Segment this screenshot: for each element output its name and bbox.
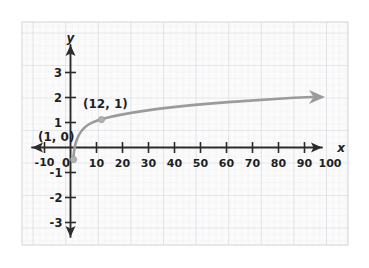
x-tick-label-30: 30 — [141, 157, 157, 170]
coordinate-plane-figure: -10 0 10 20 30 40 50 60 70 80 90 100 3 2… — [0, 0, 369, 268]
annotation-point-12-1: (12, 1) — [83, 97, 128, 111]
point-marker-12-1 — [98, 117, 104, 123]
y-axis-title: y — [67, 31, 76, 45]
x-tick-label-0: 0 — [62, 156, 70, 170]
x-tick-label-70: 70 — [245, 157, 261, 170]
graph-canvas: -10 0 10 20 30 40 50 60 70 80 90 100 3 2… — [0, 0, 369, 268]
x-tick-label-60: 60 — [219, 157, 235, 170]
y-tick-label-2: 2 — [54, 91, 62, 105]
x-tick-label-90: 90 — [297, 157, 313, 170]
y-tick-label--2: -2 — [50, 191, 63, 205]
x-tick-label-20: 20 — [115, 157, 131, 170]
x-tick-label-40: 40 — [167, 157, 183, 170]
x-axis-title: x — [336, 141, 346, 155]
y-tick-label--3: -3 — [50, 216, 63, 230]
y-tick-label-3: 3 — [54, 66, 62, 80]
y-tick-label--1: -1 — [50, 166, 63, 180]
x-tick-label-10: 10 — [89, 157, 105, 170]
y-tick-label-1: 1 — [54, 116, 62, 130]
point-marker-1-0 — [71, 156, 77, 162]
x-tick-label-50: 50 — [193, 157, 209, 170]
x-tick-label-100: 100 — [319, 157, 342, 170]
annotation-point-1-0: (1, 0) — [38, 130, 74, 144]
x-tick-label-80: 80 — [271, 157, 287, 170]
